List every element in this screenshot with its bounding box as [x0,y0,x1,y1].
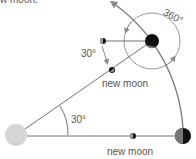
angle-arc-icon [60,106,68,135]
earth-bottom [175,128,191,144]
earth-top [145,34,159,48]
new-moon-label-lower: new moon [107,146,153,157]
lunar-month-diagram: new moon new moon 30° 30° 360° [0,0,196,159]
moon-diag [109,67,115,73]
rotation-arrow-icon [126,22,131,31]
down-arrow-icon [102,46,107,62]
moon-top [100,38,106,44]
angle-label-moon: 30° [81,48,96,59]
sun [5,124,27,146]
moon-bottom [130,133,136,139]
new-moon-label-upper: new moon [102,78,148,89]
angle-label-sun: 30° [71,114,86,125]
